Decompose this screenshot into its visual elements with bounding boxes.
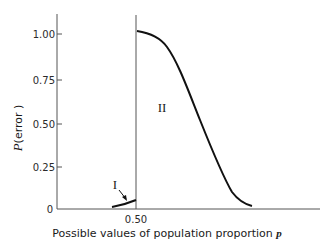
y-tick-label-1-00: 1.00 [33,29,55,40]
x-axis-title: Possible values of population proportion… [52,227,282,239]
region-label-I: I [113,177,117,192]
y-tick-label-0-25: 0.25 [33,162,55,173]
error-probability-chart: 1.00 0.75 0.50 0.25 0 P(error ) 0.50 Pos… [0,0,334,239]
y-axis-title: P(error ) [10,105,25,153]
x-axis-title-var: p [275,227,282,239]
curve-type-I [112,200,136,207]
region-label-II: II [158,100,167,115]
x-axis-title-text: Possible values of population proportion [52,227,276,239]
y-tick-label-0-50: 0.50 [33,119,55,130]
y-ticks [57,34,62,167]
curve-type-II [137,31,252,206]
y-tick-label-0: 0 [47,204,53,215]
y-tick-label-0-75: 0.75 [33,75,55,86]
y-axis-title-var: P [10,143,25,152]
x-tick-label-0-50: 0.50 [125,214,147,225]
arrow-icon [119,190,127,201]
y-axis-title-rest: (error ) [12,105,25,144]
